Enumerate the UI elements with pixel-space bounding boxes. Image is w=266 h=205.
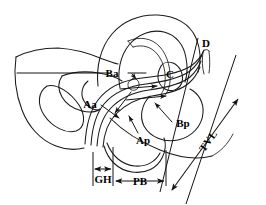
- ap-leader: [129, 116, 138, 133]
- label-pb: PB: [133, 175, 148, 187]
- label-c: C: [166, 68, 174, 80]
- label-ap: Ap: [136, 134, 150, 146]
- label-ba: Ba: [106, 67, 119, 79]
- ba-leader: [17, 73, 146, 79]
- pop-q-diagram: Ba Aa C D Bp Ap GH PB TVL: [0, 0, 266, 205]
- pubic-bone-outline: [15, 48, 118, 149]
- d-point-tube: [202, 50, 209, 74]
- label-bp: Bp: [176, 117, 189, 129]
- diagram-canvas: Ba Aa C D Bp Ap GH PB TVL: [0, 0, 266, 205]
- label-tvl: TVL: [197, 128, 220, 153]
- label-d: D: [202, 37, 210, 49]
- label-gh: GH: [94, 173, 112, 185]
- label-aa: Aa: [83, 98, 97, 110]
- bp-leader: [155, 103, 172, 122]
